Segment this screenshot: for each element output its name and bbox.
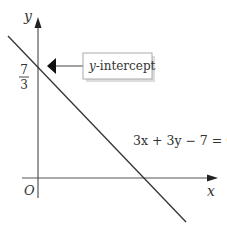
y-axis-arrow-icon bbox=[35, 17, 42, 28]
graph-diagram: y x O 7 3 y-intercept 3x + 3y − 7 = 0 bbox=[0, 0, 227, 241]
x-axis-arrow-icon bbox=[207, 175, 218, 182]
origin-label: O bbox=[24, 183, 35, 198]
equation-label: 3x + 3y − 7 = 0 bbox=[133, 133, 227, 148]
x-axis bbox=[22, 175, 218, 182]
intercept-numerator: 7 bbox=[20, 63, 28, 77]
y-axis-label: y bbox=[23, 8, 33, 24]
intercept-value: 7 3 bbox=[19, 63, 29, 92]
callout-text: y-intercept bbox=[88, 59, 156, 73]
callout-arrow-icon bbox=[47, 58, 56, 74]
callout-pointer bbox=[47, 58, 83, 74]
y-intercept-callout: y-intercept bbox=[83, 53, 156, 82]
y-axis bbox=[35, 17, 42, 198]
x-axis-label: x bbox=[207, 183, 215, 199]
callout-text-rest: -intercept bbox=[96, 59, 156, 73]
intercept-denominator: 3 bbox=[20, 78, 28, 92]
